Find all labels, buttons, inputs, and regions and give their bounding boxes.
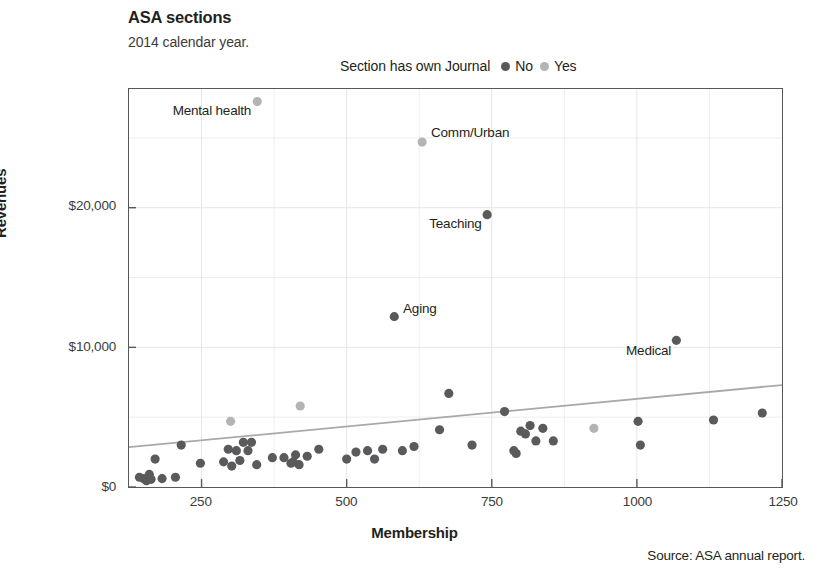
data-point[interactable] — [239, 438, 248, 447]
data-point[interactable] — [157, 474, 166, 483]
data-point[interactable] — [512, 449, 521, 458]
data-point[interactable] — [467, 441, 476, 450]
legend-title: Section has own Journal — [340, 58, 490, 74]
legend-swatch-yes — [540, 62, 549, 71]
data-point[interactable] — [549, 436, 558, 445]
data-point[interactable] — [303, 452, 312, 461]
data-point[interactable] — [672, 336, 681, 345]
data-point[interactable] — [226, 417, 235, 426]
legend-item-no[interactable]: No — [501, 58, 533, 74]
y-tick-label: $0 — [101, 479, 116, 494]
legend-label-yes: Yes — [554, 58, 577, 74]
y-axis-title: Revenues — [0, 169, 9, 238]
chart-subtitle: 2014 calendar year. — [128, 34, 249, 50]
data-point[interactable] — [227, 461, 236, 470]
legend-swatch-no — [501, 62, 510, 71]
data-point[interactable] — [521, 429, 530, 438]
data-point[interactable] — [435, 425, 444, 434]
data-point[interactable] — [538, 424, 547, 433]
data-point[interactable] — [390, 312, 399, 321]
data-point[interactable] — [296, 401, 305, 410]
x-tick-label: 1000 — [623, 494, 652, 509]
data-point[interactable] — [294, 460, 303, 469]
x-tick-label: 750 — [481, 494, 503, 509]
point-label: Mental health — [173, 103, 251, 118]
y-tick-label: $10,000 — [69, 339, 116, 354]
data-point[interactable] — [531, 436, 540, 445]
data-point[interactable] — [483, 210, 492, 219]
data-point[interactable] — [709, 415, 718, 424]
data-point[interactable] — [409, 442, 418, 451]
data-point[interactable] — [444, 389, 453, 398]
data-point[interactable] — [526, 421, 535, 430]
data-point[interactable] — [351, 448, 360, 457]
data-point[interactable] — [146, 475, 155, 484]
point-label: Comm/Urban — [431, 125, 509, 140]
point-label: Medical — [626, 343, 671, 358]
data-point[interactable] — [247, 438, 256, 447]
data-point[interactable] — [363, 446, 372, 455]
data-point[interactable] — [219, 457, 228, 466]
data-point[interactable] — [268, 453, 277, 462]
trend-line-path — [129, 385, 782, 447]
data-point[interactable] — [243, 446, 252, 455]
trend-line — [129, 385, 782, 447]
gridlines — [129, 89, 782, 487]
data-point[interactable] — [342, 454, 351, 463]
scatter-plot-canvas — [129, 89, 782, 487]
chart-title: ASA sections — [128, 8, 231, 27]
data-point[interactable] — [252, 460, 261, 469]
x-axis-title: Membership — [0, 524, 829, 541]
data-point[interactable] — [370, 454, 379, 463]
x-tick-label: 250 — [190, 494, 212, 509]
x-tick-label: 1250 — [768, 494, 797, 509]
chart-legend: Section has own Journal No Yes — [340, 58, 577, 74]
asa-sections-figure: ASA sections 2014 calendar year. Section… — [0, 0, 829, 588]
data-point[interactable] — [378, 445, 387, 454]
data-point[interactable] — [253, 97, 262, 106]
data-point[interactable] — [398, 446, 407, 455]
data-point[interactable] — [500, 407, 509, 416]
data-point[interactable] — [177, 441, 186, 450]
legend-item-yes[interactable]: Yes — [540, 58, 577, 74]
data-point[interactable] — [196, 459, 205, 468]
data-point[interactable] — [224, 445, 233, 454]
source-note: Source: ASA annual report. — [647, 548, 805, 563]
data-point[interactable] — [151, 454, 160, 463]
data-point[interactable] — [418, 137, 427, 146]
data-point[interactable] — [232, 446, 241, 455]
data-point[interactable] — [633, 417, 642, 426]
x-tick-label: 500 — [335, 494, 357, 509]
point-label: Teaching — [429, 216, 481, 231]
data-point[interactable] — [314, 445, 323, 454]
data-point[interactable] — [636, 441, 645, 450]
plot-area — [128, 88, 783, 488]
legend-label-no: No — [515, 58, 533, 74]
data-point[interactable] — [758, 408, 767, 417]
data-points — [135, 97, 767, 485]
data-point[interactable] — [171, 473, 180, 482]
y-tick-label: $20,000 — [69, 198, 116, 213]
point-label: Aging — [403, 301, 437, 316]
data-point[interactable] — [235, 456, 244, 465]
data-point[interactable] — [291, 450, 300, 459]
data-point[interactable] — [589, 424, 598, 433]
